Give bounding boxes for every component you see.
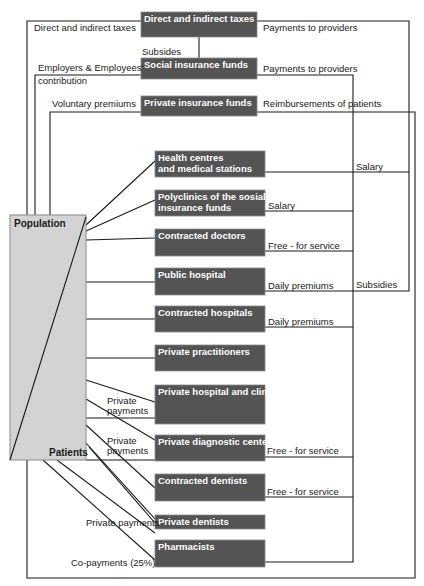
social-label: Social insurance funds [144, 59, 248, 70]
contracted_hospitals-label: Contracted hospitals [158, 307, 253, 318]
lbl-contribution: contribution [38, 75, 87, 86]
health_centres-label: and medical stations [158, 163, 252, 174]
funding-social: Social insurance funds [141, 58, 257, 79]
private_ins-label: Private insurance funds [144, 97, 252, 108]
flow-line [35, 75, 141, 215]
provider-public_hospital: Public hospital [155, 268, 265, 295]
polyclinics-label: Polyclinics of the sosial [158, 191, 266, 202]
provider-private_diagnostic: Private diagnostic centers [155, 435, 276, 461]
lbl-employers: Employers & Employees' [38, 62, 143, 73]
lbl-private-pay-3: Private payments [86, 517, 160, 528]
lbl-payments-providers-2: Payments to providers [263, 63, 358, 74]
flow-line [86, 238, 155, 240]
population-label: Population [14, 218, 66, 229]
private_diagnostic-label: Private diagnostic centers [158, 436, 276, 447]
provider-health_centres: Health centresand medical stations [155, 151, 265, 177]
funding-sources: Direct and indirect taxesSocial insuranc… [141, 12, 257, 116]
lbl-private-pay-1b: payments [107, 405, 148, 416]
providers: Health centresand medical stationsPolycl… [155, 151, 280, 567]
lbl-subsidies: Subsidies [356, 279, 397, 290]
lbl-subsides: Subsides [142, 46, 181, 57]
lbl-salary-2: Salary [268, 200, 295, 211]
flow-line [43, 460, 155, 560]
lbl-daily-1: Daily premiums [268, 280, 334, 291]
health-financing-diagram: Population Patients Direct and indirect … [0, 0, 424, 586]
patients-label: Patients [49, 447, 88, 458]
health_centres-label: Health centres [158, 152, 223, 163]
lbl-fee-2: Free - for service [267, 445, 339, 456]
lbl-reimbursements: Reimbursements of patients [263, 98, 382, 109]
private_practitioners-label: Private practitioners [158, 346, 250, 357]
polyclinics-label: insurance funds [158, 202, 231, 213]
provider-private_dentists: Private dentists [155, 515, 265, 529]
lbl-fee-1: Free - for service [268, 240, 340, 251]
lbl-daily-2: Daily premiums [268, 316, 334, 327]
funding-taxes: Direct and indirect taxes [141, 12, 257, 37]
lbl-private-pay-2b: payments [107, 445, 148, 456]
private_dentists-label: Private dentists [158, 516, 229, 527]
pharmacists-label: Pharmacists [158, 541, 215, 552]
contracted_dentists-label: Contracted dentists [158, 475, 247, 486]
taxes-label: Direct and indirect taxes [144, 13, 254, 24]
contracted_doctors-label: Contracted doctors [158, 230, 246, 241]
provider-contracted_doctors: Contracted doctors [155, 229, 265, 256]
lbl-copay: Co-payments (25%) [71, 557, 155, 568]
provider-private_practitioners: Private practitioners [155, 345, 265, 371]
lbl-direct-taxes: Direct and indirect taxes [34, 22, 136, 33]
population-box: Population Patients [10, 215, 88, 460]
private_hospital-label: Private hospital and clinics [158, 386, 280, 397]
provider-contracted_hospitals: Contracted hospitals [155, 306, 265, 332]
public_hospital-label: Public hospital [158, 269, 226, 280]
lbl-salary-1: Salary [356, 161, 383, 172]
lbl-fee-3: Free - for service [267, 486, 339, 497]
flow-line [50, 112, 141, 215]
provider-pharmacists: Pharmacists [155, 540, 265, 567]
funding-private_ins: Private insurance funds [141, 96, 257, 116]
lbl-payments-providers-1: Payments to providers [263, 22, 358, 33]
lbl-voluntary: Voluntary premiums [52, 98, 136, 109]
provider-polyclinics: Polyclinics of the sosialinsurance funds [155, 190, 266, 216]
provider-contracted_dentists: Contracted dentists [155, 474, 265, 501]
provider-private_hospital: Private hospital and clinics [155, 385, 280, 424]
